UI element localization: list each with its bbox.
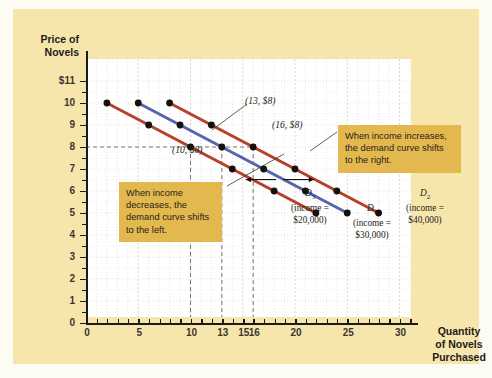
x-tick-mark [295,319,297,325]
y-minor-tick [82,180,86,181]
data-point [260,166,267,173]
x-minor-tick [285,319,286,323]
x-minor-tick [275,319,276,323]
x-minor-tick [306,319,307,323]
figure-root: Price of Novels Quantity of Novels Purch… [0,0,492,378]
y-axis-title-line1: Price of [13,33,79,46]
data-point [292,166,299,173]
shift-left-arrow [246,177,276,182]
y-tick-mark [80,279,86,281]
y-tick-label: 10 [13,98,75,108]
y-tick-label: 1 [13,296,75,306]
x-minor-tick [410,319,411,323]
y-tick-mark [80,301,86,303]
x-axis-title: Quantity of Novels Purchased [417,325,492,364]
x-tick-label: 0 [67,328,107,338]
curve-label-D1: D1(income =$30,000) [353,203,391,242]
x-minor-tick [128,319,129,323]
point-label-p10: (10, $8) [172,144,202,155]
y-minor-tick [82,92,86,93]
x-minor-tick [337,319,338,323]
curve-label-D2: D2(income =$40,000) [406,188,444,227]
y-minor-tick [82,290,86,291]
data-point [177,122,184,129]
x-tick-mark [138,319,140,325]
y-tick-label: 6 [13,186,75,196]
curve-label-symbol-D1: D1 [353,203,391,218]
x-tick-label: 16 [234,328,274,338]
x-minor-tick [379,319,380,323]
y-minor-tick [82,268,86,269]
x-tick-label: 25 [328,328,368,338]
x-minor-tick [170,319,171,323]
y-minor-tick [82,202,86,203]
x-tick-mark [400,319,402,325]
y-minor-tick [82,114,86,115]
y-minor-tick [82,312,86,313]
y-tick-mark [80,169,86,171]
x-tick-label: 30 [381,328,421,338]
data-point [145,122,152,129]
x-minor-tick [316,319,317,323]
x-minor-tick [107,319,108,323]
x-minor-tick [180,319,181,323]
y-tick-mark [80,235,86,237]
x-minor-tick [233,319,234,323]
x-tick-mark [253,319,255,325]
curve-label-income1-D3: (income = [291,203,329,215]
x-minor-tick [327,319,328,323]
y-tick-label: 4 [13,230,75,240]
x-minor-tick [389,319,390,323]
x-minor-tick [160,319,161,323]
curve-label-D3: D3(income =$20,000) [291,188,329,227]
x-tick-label: 5 [119,328,159,338]
y-tick-label: 9 [13,120,75,130]
x-minor-tick [212,319,213,323]
data-point [218,144,225,151]
data-point [229,166,236,173]
data-point [104,100,111,107]
y-tick-label: 8 [13,142,75,152]
x-minor-tick [118,319,119,323]
curve-label-income1-D2: (income = [406,203,444,215]
x-minor-tick [149,319,150,323]
x-tick-mark [191,319,193,325]
y-tick-label: 5 [13,208,75,218]
curve-label-income2-D2: $40,000) [406,215,444,227]
x-minor-tick [264,319,265,323]
y-tick-label: $11 [13,76,75,86]
curve-label-symbol-D2: D2 [406,188,444,203]
y-tick-mark [80,125,86,127]
callout-increase: When income increases, the demand curve … [338,125,461,173]
data-point [333,188,340,195]
y-tick-mark [80,257,86,259]
data-point [208,122,215,129]
y-axis-title: Price of Novels [13,33,79,59]
point-label-p16: (16, $8) [272,119,302,130]
callout-decrease: When income decreases, the demand curve … [119,182,222,242]
x-axis-title-line3: Purchased [417,351,492,364]
y-tick-label: 0 [13,318,75,328]
y-minor-tick [82,246,86,247]
figure-panel: Price of Novels Quantity of Novels Purch… [13,9,479,364]
data-point [166,100,173,107]
x-tick-mark [347,319,349,325]
point-label-p13: (13, $8) [245,95,275,106]
y-minor-tick [82,136,86,137]
x-minor-tick [201,319,202,323]
y-tick-label: 2 [13,274,75,284]
data-point [271,188,278,195]
y-tick-label: 3 [13,252,75,262]
x-axis-title-line1: Quantity [417,325,492,338]
x-minor-tick [97,319,98,323]
y-tick-mark [80,81,86,83]
y-tick-label: 7 [13,164,75,174]
curve-label-income1-D1: (income = [353,218,391,230]
data-point [135,100,142,107]
y-tick-mark [80,147,86,149]
x-tick-mark [86,319,88,325]
x-minor-tick [358,319,359,323]
data-point [344,210,351,217]
x-minor-tick [369,319,370,323]
y-minor-tick [82,158,86,159]
